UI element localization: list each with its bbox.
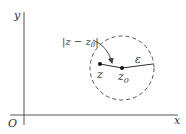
distance-annotation: |z − z0|: [62, 36, 99, 49]
point-z: [98, 62, 102, 66]
point-z0-label: z0: [117, 70, 129, 85]
origin-label: O: [8, 117, 17, 130]
point-z-label: z: [96, 68, 103, 81]
segment-z-z0: [100, 64, 122, 68]
diagram-svg: y O x z z0 ε |z − z0|: [0, 0, 186, 134]
radius-epsilon-label: ε: [135, 53, 141, 66]
y-axis-label: y: [13, 9, 21, 22]
epsilon-neighborhood-diagram: y O x z z0 ε |z − z0|: [0, 0, 186, 134]
x-axis-label: x: [174, 114, 181, 127]
